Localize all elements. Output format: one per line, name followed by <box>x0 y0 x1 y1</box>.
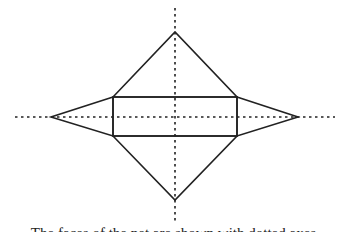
net-diagram <box>0 0 347 232</box>
figure-caption: The faces of the net are shown with dott… <box>0 224 347 232</box>
